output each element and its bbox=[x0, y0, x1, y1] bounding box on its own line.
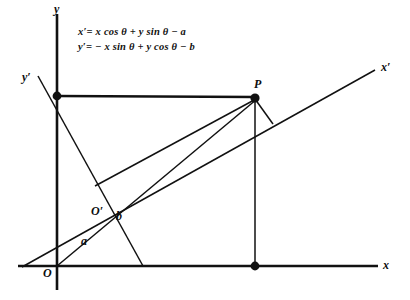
y-axis-node-dot bbox=[53, 92, 62, 101]
y-axis-label: y bbox=[54, 3, 59, 15]
formula-x-prime: x′= x cos θ + y sin θ − a bbox=[78, 24, 195, 39]
coordinate-diagram-svg bbox=[0, 0, 410, 300]
p-horizontal-projection-line bbox=[57, 96, 255, 97]
transformation-formulas: x′= x cos θ + y sin θ − a y′= − x sin θ … bbox=[78, 24, 195, 54]
point-p-dot bbox=[250, 93, 259, 102]
p-perpendicular-to-xprime-line bbox=[255, 99, 273, 124]
x-prime-axis-line bbox=[22, 70, 375, 267]
diagram-canvas: x′= x cos θ + y sin θ − a y′= − x sin θ … bbox=[0, 0, 410, 300]
x-prime-axis-label: x′ bbox=[381, 61, 390, 73]
origin-to-p-line bbox=[57, 99, 257, 266]
formula-y-prime: y′= − x sin θ + y cos θ − b bbox=[78, 39, 195, 54]
offset-b-label: b bbox=[116, 210, 122, 222]
x-axis-label: x bbox=[383, 259, 389, 271]
point-p-label: P bbox=[254, 78, 261, 90]
origin-prime-label: O′ bbox=[91, 205, 103, 217]
upper-parallel-line bbox=[95, 99, 256, 186]
origin-label: O bbox=[43, 267, 52, 279]
y-prime-axis-label: y′ bbox=[22, 71, 31, 83]
offset-a-label: a bbox=[81, 235, 87, 247]
x-axis-node-dot bbox=[251, 262, 260, 271]
